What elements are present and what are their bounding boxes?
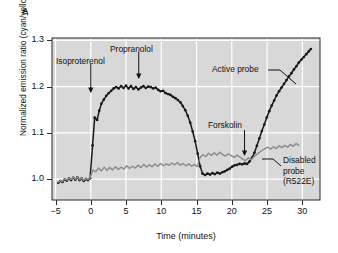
data-point: [115, 86, 118, 89]
data-point: [241, 163, 244, 166]
data-point: [278, 90, 281, 93]
data-point: [137, 88, 140, 91]
data-point: [127, 87, 130, 90]
data-point: [181, 105, 184, 108]
data-point: [194, 140, 197, 143]
data-point: [300, 58, 303, 61]
data-point: [280, 86, 283, 89]
data-point: [135, 86, 138, 89]
data-point: [107, 92, 110, 95]
data-point: [177, 99, 180, 102]
data-point: [149, 86, 152, 89]
data-point: [216, 171, 219, 174]
data-point: [273, 99, 276, 102]
data-point: [98, 109, 101, 112]
data-point: [246, 163, 249, 166]
data-point: [283, 82, 286, 85]
data-point: [102, 98, 105, 101]
data-point: [105, 95, 108, 98]
data-point: [142, 85, 145, 88]
annotation-propranolol: Propranolol: [110, 44, 153, 54]
data-point: [268, 110, 271, 113]
annotation-disabled-probe-line-1: Disabled: [283, 155, 316, 166]
data-point: [157, 88, 160, 91]
data-point: [231, 165, 234, 168]
data-point: [147, 85, 150, 88]
data-point: [100, 102, 103, 105]
data-point: [260, 130, 263, 133]
data-point: [236, 163, 239, 166]
data-point: [112, 87, 115, 90]
data-point: [159, 90, 162, 93]
annotation-disabled-probe-line-2: probe: [283, 166, 316, 177]
chart-plot-area: [0, 0, 338, 253]
data-point: [238, 163, 241, 166]
data-point: [214, 173, 217, 176]
data-point: [226, 169, 229, 172]
data-point: [140, 86, 143, 89]
data-point: [184, 109, 187, 112]
data-point: [93, 116, 96, 119]
data-point: [154, 86, 157, 89]
data-point: [297, 61, 300, 64]
data-point: [110, 89, 113, 92]
data-point: [233, 164, 236, 167]
data-point: [206, 172, 209, 175]
data-point: [293, 68, 296, 71]
data-point: [209, 173, 212, 176]
data-point: [263, 123, 266, 126]
data-point: [189, 121, 192, 124]
data-point: [169, 94, 172, 97]
data-point: [199, 165, 202, 168]
annotation-isoproterenol: Isoproterenol: [56, 56, 105, 66]
data-point: [167, 93, 170, 96]
data-point: [172, 95, 175, 98]
data-point: [307, 50, 310, 53]
data-point: [186, 114, 189, 117]
data-point: [204, 174, 207, 177]
data-point: [285, 79, 288, 82]
annotation-forskolin: Forskolin: [208, 120, 242, 130]
data-point: [179, 101, 182, 104]
data-point: [122, 87, 125, 90]
data-point: [223, 170, 226, 173]
data-point: [309, 48, 312, 51]
data-point: [275, 94, 278, 97]
data-point: [132, 88, 135, 91]
data-point: [305, 53, 308, 56]
annotation-disabled-probe: Disabledprobe(R522E): [283, 155, 316, 187]
data-point: [211, 172, 214, 175]
data-point: [152, 87, 155, 90]
data-point: [270, 104, 273, 107]
figure-panel: A Normalized emission ratio (cyan/yellow…: [0, 0, 338, 253]
annotation-active-probe: Active probe: [212, 64, 259, 74]
data-point: [221, 171, 224, 174]
data-point: [302, 56, 305, 59]
data-point: [290, 72, 293, 75]
data-point: [256, 145, 259, 148]
data-point: [253, 151, 256, 154]
data-point: [130, 85, 133, 88]
data-point: [117, 87, 120, 90]
data-point: [201, 172, 204, 175]
data-point: [120, 85, 123, 88]
data-point: [196, 152, 199, 155]
data-point: [91, 144, 94, 147]
data-point: [144, 87, 147, 90]
data-point: [191, 130, 194, 133]
data-point: [164, 92, 167, 95]
data-point: [96, 119, 99, 122]
data-point: [248, 160, 251, 163]
data-point: [219, 172, 222, 175]
data-point: [162, 89, 165, 92]
data-point: [243, 162, 246, 165]
annotation-disabled-probe-line-3: (R522E): [283, 176, 316, 187]
data-point: [258, 137, 261, 140]
data-point: [265, 116, 268, 119]
data-point: [174, 97, 177, 100]
data-point: [125, 84, 128, 87]
data-point: [295, 65, 298, 68]
data-point: [228, 167, 231, 170]
